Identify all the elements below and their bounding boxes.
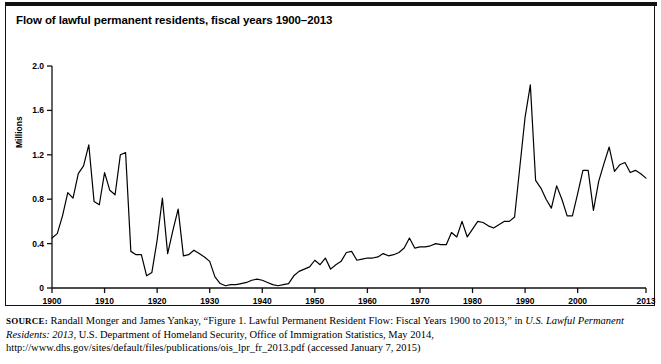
source-label: SOURCE: [6,316,48,326]
y-axis-tick-label: 2.0 [32,61,44,71]
chart-plot-area: Millions 00.40.81.21.62.0190019101920193… [0,0,661,310]
x-axis-tick-label: 1900 [43,296,62,306]
y-axis-tick-label: 0.8 [32,194,44,204]
x-axis-tick-label: 1930 [200,296,219,306]
x-axis-tick-label: 1950 [305,296,324,306]
x-axis-tick-label: 1960 [358,296,377,306]
data-series-line [52,85,646,286]
x-axis-tick-label: 1980 [463,296,482,306]
x-axis-tick-label: 2013 [637,296,656,306]
x-axis-tick-label: 1910 [95,296,114,306]
y-axis-tick-label: 0 [39,283,44,293]
y-axis-tick-label: 0.4 [32,239,44,249]
y-axis-tick-label: 1.6 [32,105,44,115]
x-axis-tick-label: 1970 [411,296,430,306]
line-chart-svg: 00.40.81.21.62.0190019101920193019401950… [0,0,661,310]
source-note: SOURCE: Randall Monger and James Yankay,… [6,314,655,355]
x-axis-tick-label: 1990 [516,296,535,306]
source-text-1: Randall Monger and James Yankay, “Figure… [48,315,525,326]
x-axis-tick-label: 1920 [148,296,167,306]
x-axis-tick-label: 2000 [568,296,587,306]
x-axis-tick-label: 1940 [253,296,272,306]
y-axis-tick-label: 1.2 [32,150,44,160]
figure-page: Flow of lawful permanent residents, fisc… [0,0,661,364]
